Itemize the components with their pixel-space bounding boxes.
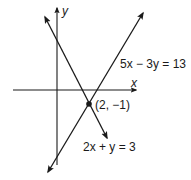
line-label-5x-3y-13: 5x − 3y = 13 — [120, 58, 186, 70]
line-2x-y-3 — [45, 17, 107, 138]
intersection-point — [86, 101, 92, 107]
intersection-label: (2, −1) — [95, 99, 130, 111]
y-axis-label: y — [62, 5, 68, 17]
x-axis-label: x — [131, 77, 137, 89]
line-label-2x-y-3: 2x + y = 3 — [83, 141, 136, 153]
